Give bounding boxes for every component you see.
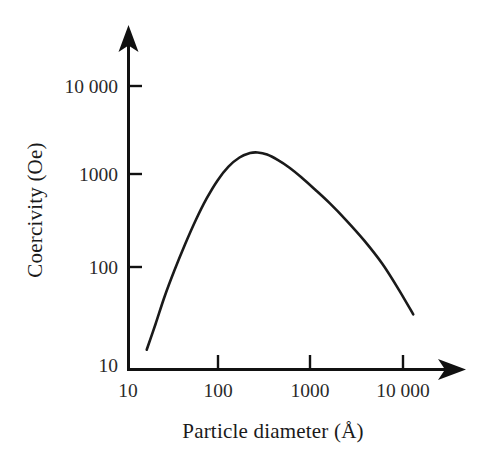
x-tick-label-1000: 1000	[280, 380, 340, 402]
x-tick-label-10000: 10 000	[358, 380, 448, 402]
y-tick-label-10: 10	[24, 355, 118, 377]
y-axis-ticks	[128, 86, 142, 267]
x-axis-ticks	[218, 355, 403, 369]
x-axis-title: Particle diameter (Å)	[128, 419, 418, 444]
y-axis-title-wrap: Coercivity (Oe)	[18, 110, 52, 310]
coercivity-curve	[147, 152, 414, 349]
x-tick-label-100: 100	[188, 380, 248, 402]
x-tick-label-10: 10	[98, 380, 158, 402]
coercivity-vs-particle-diameter-chart: 10 000 1000 100 10 10 100 1000 10 000 Co…	[0, 0, 491, 468]
y-axis-log-coercivity	[119, 25, 139, 369]
y-axis-title: Coercivity (Oe)	[23, 142, 48, 277]
x-axis-log-particle-diameter	[127, 359, 466, 380]
y-tick-label-10000: 10 000	[24, 76, 118, 98]
